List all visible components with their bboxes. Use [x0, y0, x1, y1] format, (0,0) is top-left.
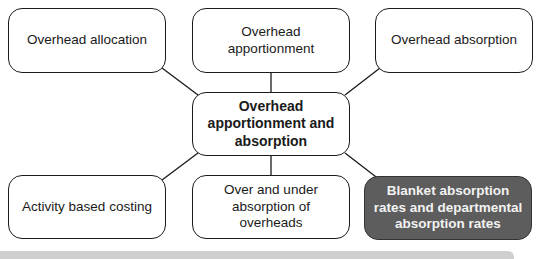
- node-label: Over and under absorption of overheads: [201, 182, 341, 233]
- node-overhead-apportionment: Overhead apportionment: [192, 8, 350, 73]
- node-label: Overhead absorption: [391, 32, 517, 49]
- node-label: Blanket absorption rates and departmenta…: [373, 183, 523, 234]
- node-over-under-absorption: Over and under absorption of overheads: [192, 175, 350, 239]
- center-label: Overhead apportionment and absorption: [201, 98, 341, 151]
- node-label: Overhead allocation: [27, 32, 147, 49]
- node-overhead-absorption: Overhead absorption: [375, 8, 533, 73]
- node-label: Overhead apportionment: [201, 24, 341, 58]
- node-label: Activity based costing: [22, 199, 152, 216]
- footer-bar: [0, 251, 514, 259]
- node-overhead-allocation: Overhead allocation: [8, 8, 166, 73]
- node-blanket-departmental-rates: Blanket absorption rates and departmenta…: [364, 176, 532, 240]
- node-activity-based-costing: Activity based costing: [8, 175, 166, 239]
- node-center-apportionment-absorption: Overhead apportionment and absorption: [192, 92, 350, 156]
